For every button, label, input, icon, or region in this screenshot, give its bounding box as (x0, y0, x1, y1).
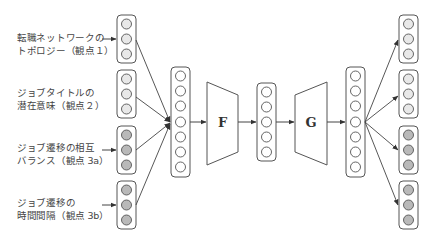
input-box-2 (117, 70, 136, 118)
input-label-line2: 潜在意味（観点２） (17, 99, 104, 112)
input-label-line2: トポロジー（観点１） (17, 44, 114, 57)
input-label-line1: ジョブタイトルの (17, 86, 104, 99)
decoder-G: G (295, 82, 327, 165)
input-label-topology: 転職ネットワークの トポロジー（観点１） (17, 31, 114, 57)
split-arrows (365, 40, 398, 205)
input-label-line1: 転職ネットワークの (17, 31, 114, 44)
input-label-job-title-semantics: ジョブタイトルの 潜在意味（観点２） (17, 86, 104, 112)
input-box-1 (117, 15, 136, 63)
decoder-label: G (305, 115, 316, 130)
merge-arrows (136, 40, 170, 205)
input-label-line1: ジョブ遷移の相互 (17, 141, 109, 154)
autoencoder-diagram: F G (0, 0, 435, 248)
reconstruction-layer (346, 67, 365, 177)
output-box-2 (399, 70, 418, 118)
output-box-3 (399, 126, 418, 174)
output-box-4 (399, 181, 418, 229)
concat-layer (171, 67, 190, 177)
input-arrows (102, 39, 116, 205)
input-label-time-interval: ジョブ遷移の 時間間隔（観点 3b） (17, 196, 109, 222)
latent-layer (257, 83, 276, 161)
input-label-line1: ジョブ遷移の (17, 196, 109, 209)
encoder-F: F (207, 82, 238, 165)
encoder-label: F (218, 115, 228, 130)
input-box-3 (117, 126, 136, 174)
input-label-mutual-balance: ジョブ遷移の相互 バランス（観点 3a） (17, 141, 109, 167)
output-box-1 (399, 15, 418, 63)
input-label-line2: バランス（観点 3a） (17, 154, 109, 167)
input-label-line2: 時間間隔（観点 3b） (17, 209, 109, 222)
input-box-4 (117, 181, 136, 229)
